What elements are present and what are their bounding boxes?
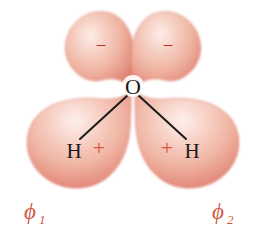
orbital-diagram-canvas: − − + + O H H ϕ 1 — [0, 0, 265, 238]
oxygen-symbol: O — [125, 74, 141, 99]
plus-sign-bonding-left: + — [93, 135, 105, 160]
phi-2-subscript: 2 — [227, 212, 234, 227]
phi-1-base: ϕ — [24, 199, 36, 224]
plus-sign-bonding-right: + — [161, 135, 173, 160]
phi-1-subscript: 1 — [39, 212, 46, 227]
atom-label-oxygen: O — [122, 74, 144, 99]
minus-sign-lone-pair-left: − — [96, 35, 107, 56]
orbital-label-phi-1: ϕ 1 — [24, 199, 46, 227]
orbital-diagram-figure: − − + + O H H ϕ 1 — [0, 0, 265, 238]
hydrogen-right-symbol: H — [184, 139, 199, 163]
hydrogen-left-symbol: H — [66, 139, 81, 163]
phi-2-base: ϕ — [212, 199, 224, 224]
orbital-label-phi-2: ϕ 2 — [212, 199, 234, 227]
minus-sign-lone-pair-right: − — [163, 35, 174, 56]
